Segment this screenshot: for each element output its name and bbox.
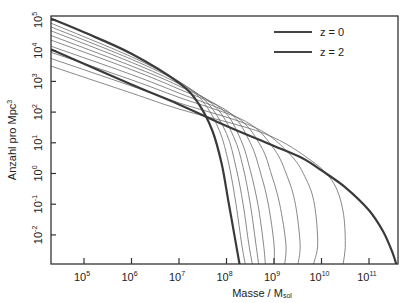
x-axis-label-sub: sol	[283, 292, 292, 299]
legend-label: z = 0	[320, 26, 344, 38]
x-axis-label: Masse / M	[232, 287, 283, 299]
y-axis-label: Anzahl pro Mpc	[6, 103, 18, 180]
chart-background	[0, 0, 410, 303]
legend-label: z = 2	[320, 46, 344, 58]
svg-text:Anzahl pro Mpc3: Anzahl pro Mpc3	[6, 100, 18, 180]
y-axis-label-sup: 3	[6, 100, 13, 104]
mass-function-chart: 10510610710810910101011 1051041031021011…	[0, 0, 410, 303]
y-axis-title: Anzahl pro Mpc3	[6, 100, 18, 180]
